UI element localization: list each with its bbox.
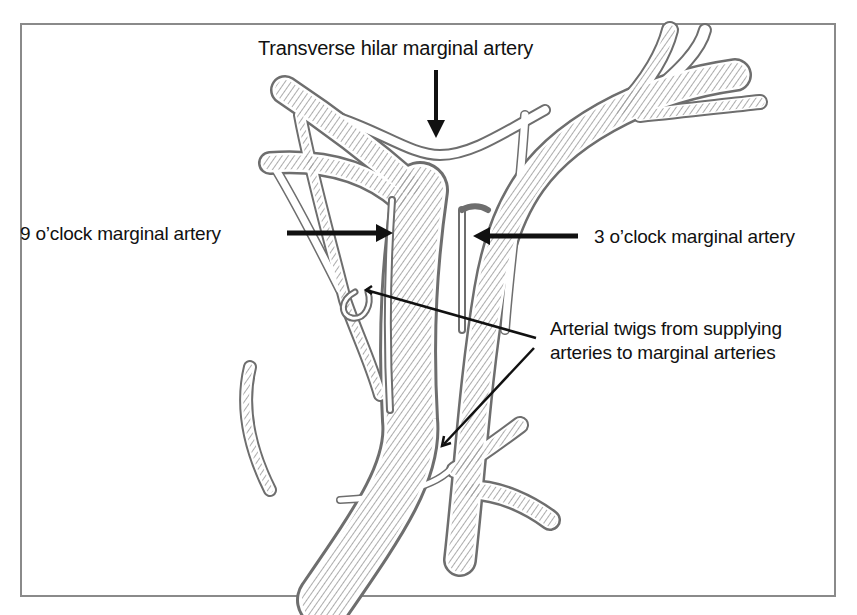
- label-arterial-twigs-line1: Arterial twigs from supplying: [550, 318, 782, 340]
- arrow-down-transverse: [427, 70, 445, 138]
- arrow-left-3-oclock: [473, 227, 578, 245]
- label-3-oclock-marginal-artery: 3 o’clock marginal artery: [594, 226, 795, 248]
- vessels: [246, 30, 760, 600]
- label-transverse-hilar-marginal-artery: Transverse hilar marginal artery: [258, 37, 533, 59]
- artery-illustration: [0, 0, 857, 615]
- label-arterial-twigs-line2: arteries to marginal arteries: [550, 342, 775, 364]
- label-9-oclock-marginal-artery: 9 o’clock marginal artery: [20, 223, 221, 245]
